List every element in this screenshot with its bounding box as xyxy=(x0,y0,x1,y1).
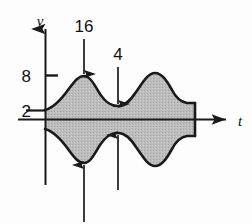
waveform-figure: v t 8 2 16 4 xyxy=(0,0,252,224)
time-axis-label: t xyxy=(238,113,243,129)
figure-container: v t 8 2 16 4 xyxy=(0,0,252,224)
voltage-axis-label: v xyxy=(37,13,44,29)
peak-amplitude-annotation-label: 16 xyxy=(75,17,94,36)
trough-amplitude-annotation-label: 4 xyxy=(113,45,122,64)
peak-amplitude-annotation: 16 xyxy=(75,17,94,74)
tick-label-2: 2 xyxy=(22,102,31,121)
trough-amplitude-annotation: 4 xyxy=(113,45,122,104)
tick-label-8: 8 xyxy=(22,67,31,86)
